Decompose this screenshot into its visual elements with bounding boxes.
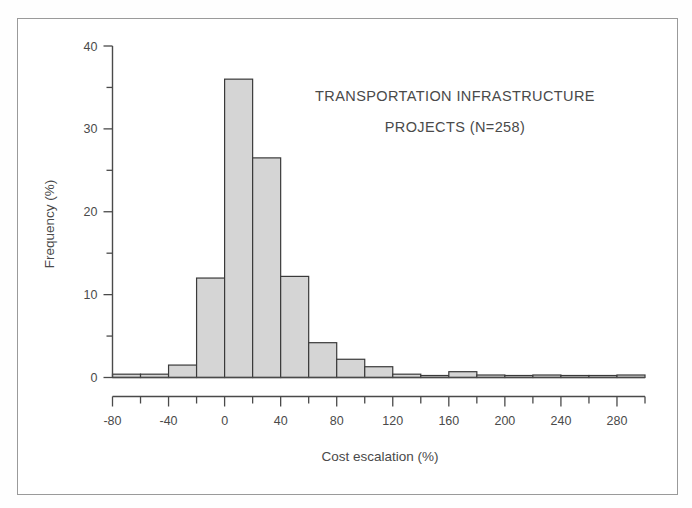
histogram-bar: [169, 365, 197, 377]
y-axis-tick-label: 20: [84, 205, 98, 219]
histogram-bar: [253, 158, 281, 378]
chart-annotation-line-1: TRANSPORTATION INFRASTRUCTURE: [315, 88, 595, 104]
figure-canvas: 010203040-80-4004080120160200240280 TRAN…: [0, 0, 692, 508]
x-axis-tick-label: 80: [330, 414, 344, 428]
bars-group: [113, 79, 646, 377]
x-axis-tick-label: 200: [494, 414, 515, 428]
histogram-bar: [197, 278, 225, 377]
x-axis-tick-label: 120: [382, 414, 403, 428]
histogram-plot: 010203040-80-4004080120160200240280 TRAN…: [0, 0, 692, 508]
y-axis-tick-label: 10: [84, 288, 98, 302]
histogram-bar: [337, 359, 365, 377]
x-axis-tick-label: 0: [221, 414, 228, 428]
y-axis-tick-label: 30: [84, 122, 98, 136]
x-axis-tick-label: 160: [438, 414, 459, 428]
histogram-bar: [225, 79, 253, 377]
x-axis-tick-label: 40: [274, 414, 288, 428]
x-axis-tick-label: -40: [160, 414, 178, 428]
x-axis-tick-label: 280: [607, 414, 628, 428]
histogram-bar: [449, 372, 477, 378]
x-axis-title: Cost escalation (%): [321, 449, 438, 464]
y-axis-tick-label: 0: [91, 371, 98, 385]
histogram-bar: [281, 276, 309, 377]
histogram-bar: [309, 343, 337, 378]
x-axis-tick-label: -80: [103, 414, 121, 428]
x-axis-tick-label: 240: [550, 414, 571, 428]
histogram-bar: [365, 367, 393, 378]
y-axis-title: Frequency (%): [42, 180, 57, 269]
y-axis-tick-label: 40: [84, 40, 98, 54]
chart-annotation-line-2: PROJECTS (N=258): [385, 119, 526, 135]
